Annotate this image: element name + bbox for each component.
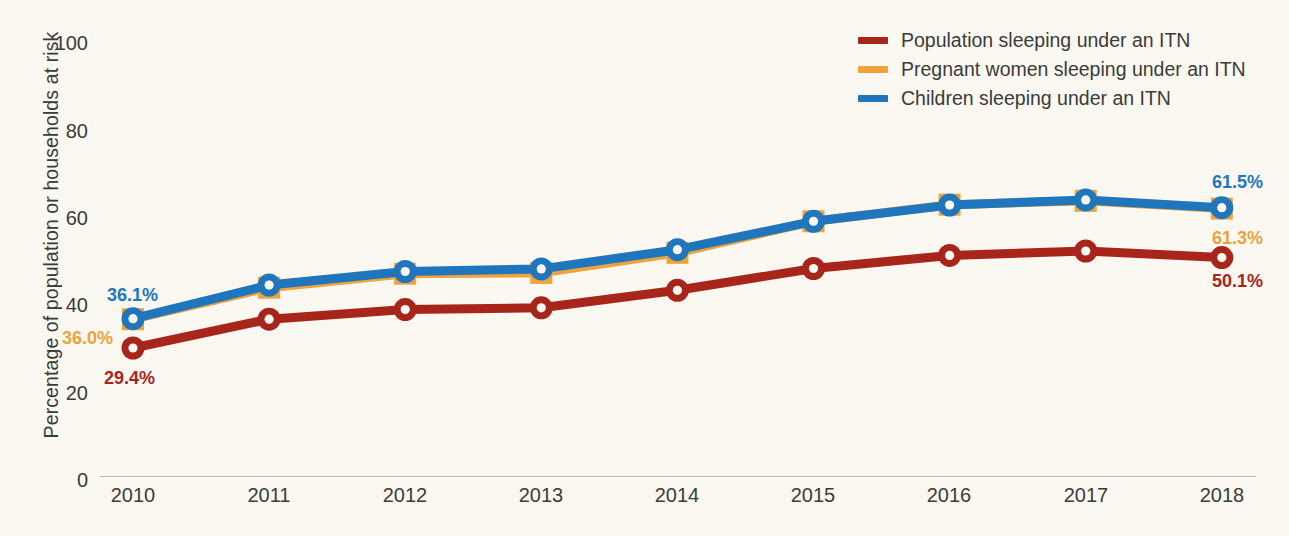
data-point-center — [673, 286, 682, 295]
chart-container: Percentage of population or households a… — [0, 0, 1289, 536]
data-point-center — [265, 281, 274, 290]
data-point-center — [945, 251, 954, 260]
data-point-center — [809, 217, 818, 226]
data-point-center — [128, 314, 137, 323]
legend-label-population: Population sleeping under an ITN — [901, 31, 1190, 51]
legend-label-pregnant-women: Pregnant women sleeping under an ITN — [901, 60, 1246, 80]
data-point-center — [1217, 203, 1226, 212]
data-point-center — [1217, 253, 1226, 262]
data-label-population-2018: 50.1% — [1212, 272, 1263, 290]
data-point-center — [265, 315, 274, 324]
data-point-center — [809, 264, 818, 273]
data-label-pregnant-2010: 36.0% — [62, 329, 113, 347]
legend: Population sleeping under an ITN Pregnan… — [858, 27, 1246, 114]
data-point-center — [1081, 195, 1090, 204]
data-point-center — [128, 343, 137, 352]
legend-item-children[interactable]: Children sleeping under an ITN — [858, 85, 1246, 112]
legend-swatch-children-icon — [858, 95, 888, 102]
data-point-center — [537, 303, 546, 312]
series-markers-children — [122, 188, 1234, 330]
data-point-center — [401, 267, 410, 276]
legend-item-population[interactable]: Population sleeping under an ITN — [858, 27, 1246, 54]
data-point-center — [401, 305, 410, 314]
data-point-center — [1081, 246, 1090, 255]
data-label-children-2018: 61.5% — [1212, 173, 1263, 191]
legend-swatch-pregnant-women-icon — [858, 66, 888, 73]
legend-swatch-population-icon — [858, 37, 888, 44]
data-point-center — [537, 264, 546, 273]
legend-item-pregnant-women[interactable]: Pregnant women sleeping under an ITN — [858, 56, 1246, 83]
legend-label-children: Children sleeping under an ITN — [901, 89, 1171, 109]
data-label-pregnant-2018: 61.3% — [1212, 229, 1263, 247]
data-point-center — [673, 245, 682, 254]
data-label-population-2010: 29.4% — [104, 369, 155, 387]
data-point-center — [945, 201, 954, 210]
data-label-children-2010: 36.1% — [107, 286, 158, 304]
